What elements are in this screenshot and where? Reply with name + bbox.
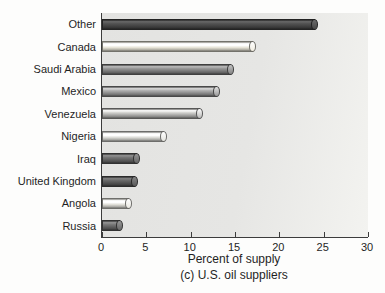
x-axis-title: Percent of supply [101,252,367,266]
bar-cap-venezuela [196,108,203,119]
category-label-saudi-arabia: Saudi Arabia [0,62,96,76]
bar-cap-united-kingdom [131,176,138,187]
figure-caption: (c) U.S. oil suppliers [101,268,367,282]
bar-cap-iraq [133,153,140,164]
category-label-angola: Angola [0,196,96,210]
bar-other [102,19,315,30]
bar-cap-mexico [213,86,220,97]
x-tick-25 [324,232,325,237]
bar-cap-angola [125,198,132,209]
bar-united-kingdom [102,176,135,187]
bar-cap-saudi-arabia [227,64,234,75]
category-label-venezuela: Venezuela [0,107,96,121]
bar-venezuela [102,108,200,119]
bar-body-mexico [102,86,217,97]
category-label-mexico: Mexico [0,84,96,98]
bar-body-other [102,19,315,30]
bar-body-saudi-arabia [102,64,231,75]
us-oil-suppliers-bar-chart: OtherCanadaSaudi ArabiaMexicoVenezuelaNi… [0,0,385,293]
x-tick-10 [191,232,192,237]
bar-cap-other [311,19,318,30]
x-tick-5 [146,232,147,237]
bar-cap-russia [116,220,123,231]
category-label-united-kingdom: United Kingdom [0,174,96,188]
bar-body-nigeria [102,131,164,142]
bar-canada [102,41,253,52]
bar-angola [102,198,129,209]
bar-body-canada [102,41,253,52]
bar-body-iraq [102,153,137,164]
bar-nigeria [102,131,164,142]
x-tick-20 [279,232,280,237]
x-tick-0 [102,232,103,237]
category-label-other: Other [0,17,96,31]
category-label-iraq: Iraq [0,152,96,166]
bar-russia [102,220,120,231]
bar-iraq [102,153,137,164]
bar-cap-canada [249,41,256,52]
x-tick-30 [368,232,369,237]
category-label-russia: Russia [0,219,96,233]
bar-cap-nigeria [160,131,167,142]
bar-body-united-kingdom [102,176,135,187]
plot-area [101,13,368,238]
bar-saudi-arabia [102,64,231,75]
category-label-canada: Canada [0,40,96,54]
category-label-nigeria: Nigeria [0,129,96,143]
bar-mexico [102,86,217,97]
x-tick-15 [235,232,236,237]
bar-body-venezuela [102,108,200,119]
